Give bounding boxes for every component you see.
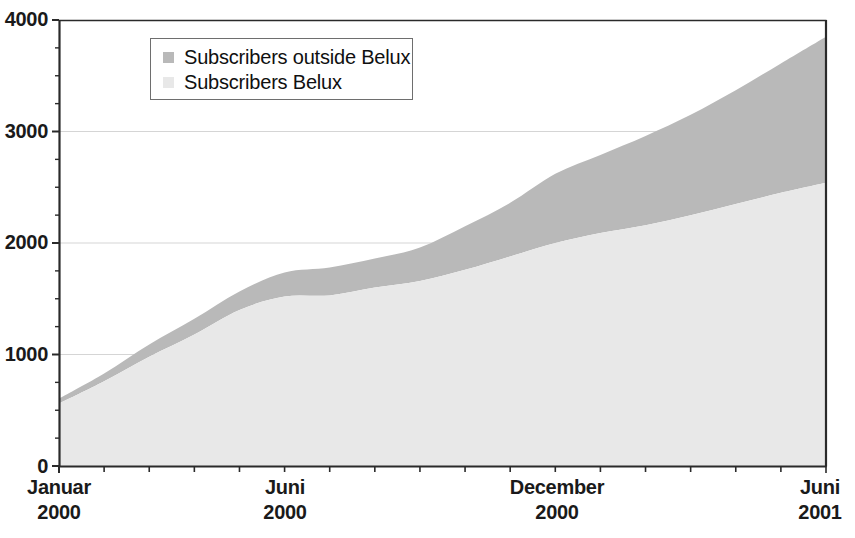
y-axis-label-4000: 4000 [0,8,48,31]
y-axis-label-3000: 3000 [0,120,48,143]
y-axis-label-1000: 1000 [0,343,48,366]
x-axis-label-juni-2001: Juni 2001 [740,475,855,525]
x-axis-month: Juni [800,476,840,498]
x-axis-month: December [510,476,604,498]
x-axis-label-december-2000: December 2000 [477,475,637,525]
x-axis-month: Januar [27,476,91,498]
legend-item-subscribers-outside-belux: Subscribers outside Belux [163,45,412,70]
x-axis-year: 2000 [205,500,365,525]
x-axis-label-januar-2000: Januar 2000 [0,475,139,525]
x-axis-year: 2000 [0,500,139,525]
chart-legend: Subscribers outside Belux Subscribers Be… [150,38,413,100]
legend-swatch-icon [163,52,174,63]
chart-plot-area [0,0,855,538]
legend-swatch-icon [163,77,174,88]
area-series-subscribers-belux [59,183,826,466]
legend-label: Subscribers Belux [184,71,342,94]
x-axis-month: Juni [265,476,305,498]
x-axis-year: 2000 [477,500,637,525]
stacked-area-chart: 4000 3000 2000 1000 0 Januar 2000 Juni 2… [0,0,855,538]
x-axis-label-juni-2000: Juni 2000 [205,475,365,525]
x-axis-year: 2001 [740,500,855,525]
legend-label: Subscribers outside Belux [184,46,410,69]
y-axis-label-2000: 2000 [0,231,48,254]
legend-item-subscribers-belux: Subscribers Belux [163,70,412,95]
